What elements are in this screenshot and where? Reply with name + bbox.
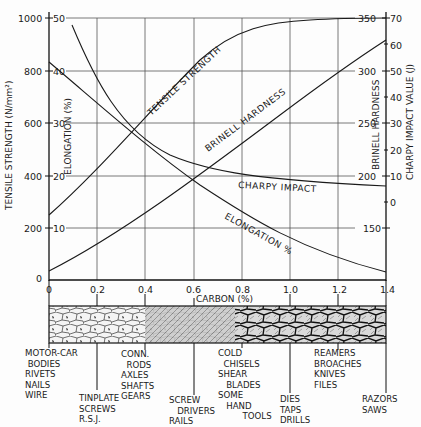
application-label-0.2: TINPLATE SCREWS R.S.J. (79, 393, 119, 425)
application-label-1.2: REAMERS BROACHES KNIVES FILES (314, 348, 362, 390)
tick-c70: 70 (390, 13, 402, 24)
tick-600: 600 (24, 118, 42, 129)
charpy-axis-ticks: 70 60 50 40 30 20 10 0 (390, 13, 402, 208)
tick-e50: 50 (53, 13, 65, 24)
tensile-curve-label: TENSILE STRENGTH (145, 44, 223, 118)
tick-c0: 0 (390, 197, 396, 208)
application-label-0.4: CONN. RODS AXLES SHAFTS GEARS (121, 349, 154, 402)
charpy-impact-curve (72, 25, 386, 186)
charpy-curve-label: CHARPY IMPACT (238, 180, 317, 194)
x-axis-title: CARBON (%) (196, 294, 253, 304)
tick-c40: 40 (390, 92, 402, 103)
brinell-axis-title: BRINELL HARDNESS (371, 79, 381, 170)
xtick-0.4: 0.4 (138, 284, 153, 295)
xtick-1.4: 1.4 (380, 284, 395, 295)
tick-b350: 350 (358, 13, 376, 24)
tick-c10: 10 (390, 171, 402, 182)
application-label-0.6: SCREW DRIVERS RAILS (169, 395, 215, 427)
brinell-curve-label: BRINELL HARDNESS (203, 86, 288, 153)
tick-0: 0 (36, 273, 42, 284)
tick-200: 200 (24, 223, 42, 234)
xtick-0: 0 (46, 284, 52, 295)
tick-c30: 30 (390, 118, 402, 129)
tick-b200: 200 (358, 171, 376, 182)
application-label-0.8: COLD CHISELS SHEAR BLADES SOME HAND TOOL… (218, 348, 272, 422)
tensile-axis-title: TENSILE STRENGTH (N/mm²) (4, 81, 14, 211)
application-label-0.0: MOTOR-CAR BODIES RIVETS NAILS WIRE (25, 348, 78, 401)
elongation-curve (49, 62, 386, 272)
tick-b300: 300 (358, 66, 376, 77)
elongation-curve-label: ELONGATION % (223, 211, 294, 257)
elongation-axis-title: ELONGATION (%) (63, 98, 73, 175)
tick-e40: 40 (53, 66, 65, 77)
tick-e10: 10 (53, 223, 65, 234)
tick-c60: 60 (390, 40, 402, 51)
application-label-1.4: RAZORS SAWS (362, 394, 398, 415)
xtick-1.0: 1.0 (283, 284, 298, 295)
xtick-1.2: 1.2 (332, 284, 347, 295)
tick-c50: 50 (390, 66, 402, 77)
xtick-0.2: 0.2 (90, 284, 105, 295)
tensile-axis-ticks: 1000 800 600 400 200 0 (18, 13, 42, 284)
application-label-1.0: DIES TAPS DRILLS (280, 394, 310, 426)
tick-1000: 1000 (18, 13, 42, 24)
charpy-axis-title: CHARPY IMPACT VALUE (J) (405, 64, 415, 180)
microstructure-strip (49, 306, 386, 343)
tick-c20: 20 (390, 145, 402, 156)
tick-800: 800 (24, 66, 42, 77)
tick-b150: 150 (363, 223, 381, 234)
tick-400: 400 (24, 171, 42, 182)
brinell-hardness-curve (49, 40, 386, 271)
